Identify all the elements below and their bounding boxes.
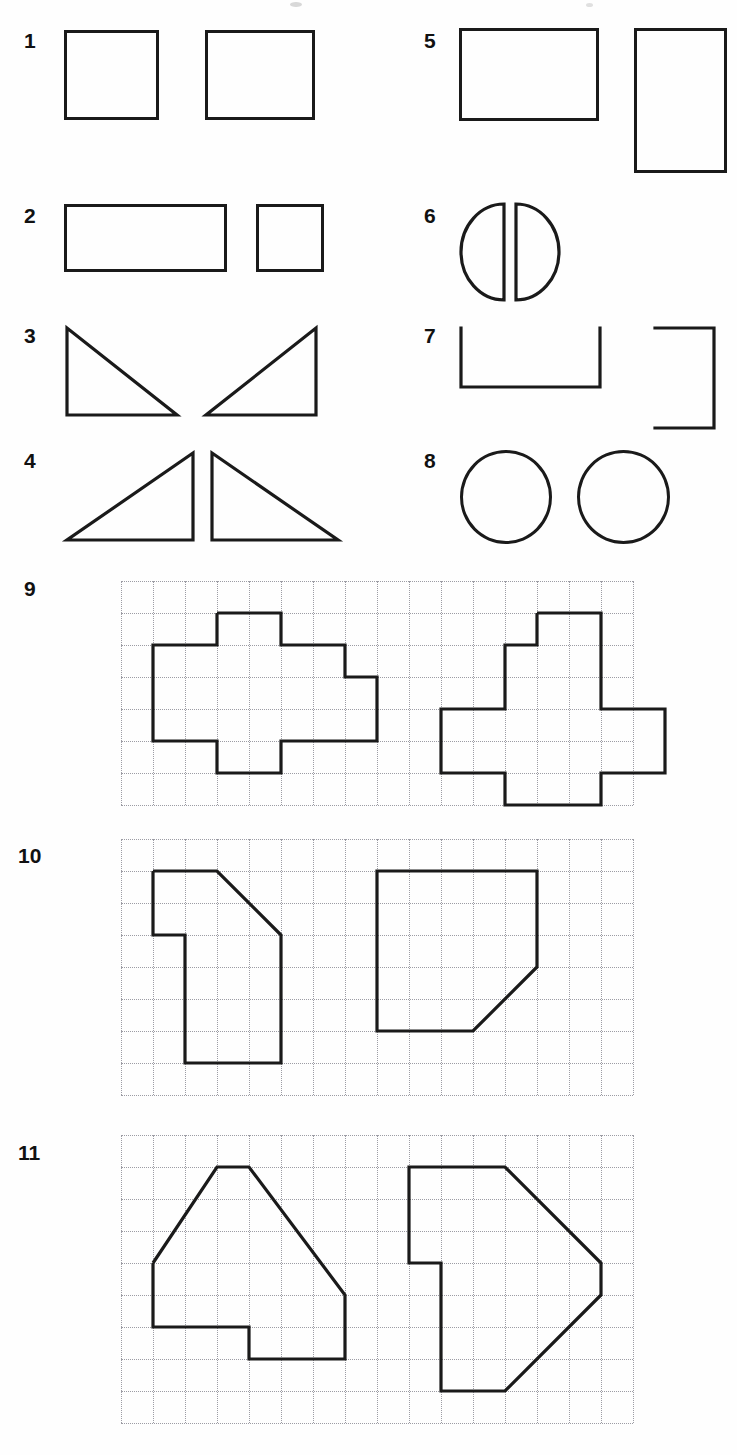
grid-9-shapes <box>121 581 633 805</box>
u-shape-pair-svg <box>458 325 737 435</box>
square-left <box>64 30 159 120</box>
u-shape-open-top <box>461 328 600 387</box>
triangle-pair-4-svg <box>64 450 344 550</box>
item-number-10: 10 <box>18 845 41 866</box>
right-triangle-right <box>206 328 316 415</box>
house-polygon-left <box>153 1167 345 1359</box>
u-shape-open-left <box>655 328 714 428</box>
rectangle-landscape <box>459 28 599 121</box>
item-number-2: 2 <box>24 205 36 226</box>
grid-10-shapes <box>121 839 633 1095</box>
right-triangle-right <box>212 453 338 540</box>
item-number-3: 3 <box>24 325 36 346</box>
grid-11-shapes <box>121 1135 633 1423</box>
circle-left <box>460 450 552 544</box>
house-polygon-right <box>409 1167 601 1391</box>
chamfered-l-left <box>153 871 281 1063</box>
item-number-9: 9 <box>24 578 36 599</box>
item-number-7: 7 <box>424 325 436 346</box>
grid-panel-9 <box>121 581 633 805</box>
grid-panel-11 <box>121 1135 633 1423</box>
item-number-8: 8 <box>424 450 436 471</box>
worksheet-sheet: 1 5 2 6 3 7 4 <box>0 0 737 1455</box>
square-right <box>205 30 315 120</box>
grid-panel-10 <box>121 839 633 1095</box>
triangle-pair-3-svg <box>64 325 334 420</box>
item-number-1: 1 <box>24 30 36 51</box>
rectangle-wide <box>64 204 227 272</box>
circle-right <box>577 450 670 544</box>
grid-line-vertical <box>633 839 634 1095</box>
item-number-11: 11 <box>18 1142 40 1163</box>
scan-speck <box>586 3 593 7</box>
right-triangle-left <box>67 453 193 540</box>
item-number-6: 6 <box>424 205 436 226</box>
semicircle-pair-svg <box>458 200 638 305</box>
polyomino-left <box>153 613 377 773</box>
grid-line-horizontal <box>121 1423 633 1424</box>
square-small <box>256 204 324 272</box>
polyomino-right <box>441 613 665 805</box>
item-number-4: 4 <box>24 450 36 471</box>
right-triangle-left <box>67 328 177 415</box>
rectangle-portrait <box>634 28 727 173</box>
scan-speck <box>290 2 302 7</box>
grid-line-horizontal <box>121 1095 633 1096</box>
chamfered-l-right <box>377 871 537 1031</box>
semicircle-right <box>516 204 559 300</box>
grid-line-vertical <box>633 1135 634 1423</box>
semicircle-left <box>461 204 504 300</box>
item-number-5: 5 <box>424 30 436 51</box>
